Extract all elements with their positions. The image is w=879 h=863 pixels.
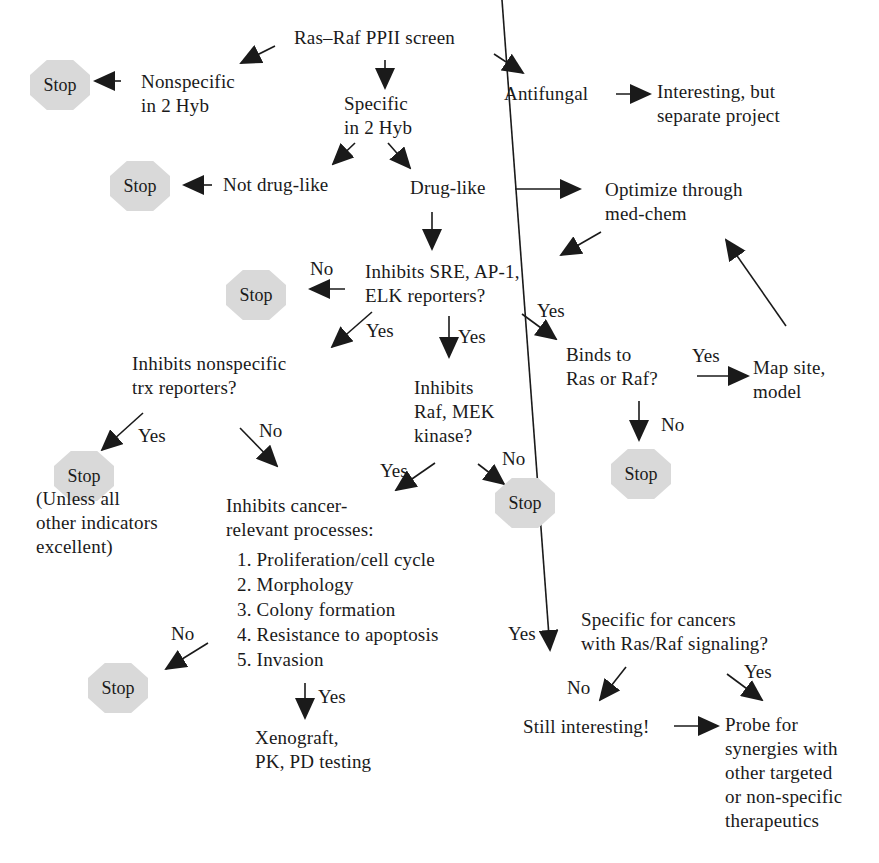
- inhibits-nonspecific-node: Inhibits nonspecific trx reporters?: [132, 352, 286, 400]
- map-site-node: Map site, model: [753, 356, 826, 404]
- probe-node: Probe for synergies with other targeted …: [725, 713, 842, 833]
- inhibits-raf-node: Inhibits Raf, MEK kinase?: [414, 376, 495, 448]
- arrow-specific-to-not-druglike: [333, 143, 355, 164]
- drug-like-node: Drug-like: [410, 176, 486, 200]
- arrow-map-site-to-optimize: [726, 240, 786, 326]
- process-item: 1. Proliferation/cell cycle: [237, 547, 439, 572]
- edge-label-yes: Yes: [692, 345, 720, 367]
- arrow-specific-cancers-to-still: [600, 667, 626, 700]
- not-drug-like-node: Not drug-like: [223, 173, 329, 197]
- specific-node: Specific in 2 Hyb: [344, 92, 412, 140]
- arrow-optimize-to-inhibits-sre: [561, 232, 601, 255]
- flowchart-canvas: Ras–Raf PPII screen Stop Nonspecific in …: [0, 0, 879, 863]
- still-interesting-node: Still interesting!: [523, 715, 650, 739]
- figure-caption-truncated: [85, 852, 705, 863]
- edge-label-no: No: [171, 623, 194, 645]
- stop-octagon-1: Stop: [30, 60, 90, 110]
- cancer-processes-node: Inhibits cancer- relevant processes:: [226, 494, 374, 542]
- edge-label-yes: Yes: [537, 300, 565, 322]
- edge-label-yes: Yes: [366, 320, 394, 342]
- edge-label-yes: Yes: [380, 460, 408, 482]
- edge-label-no: No: [310, 258, 333, 280]
- stop-octagon-6: Stop: [495, 478, 555, 528]
- edge-label-no: No: [567, 677, 590, 699]
- root-node: Ras–Raf PPII screen: [294, 26, 455, 50]
- edge-label-no: No: [259, 420, 282, 442]
- stop-octagon-3: Stop: [226, 270, 286, 320]
- antifungal-node: Antifungal: [504, 82, 588, 106]
- stop-octagon-4: Stop: [611, 449, 671, 499]
- stop-octagon-2: Stop: [110, 161, 170, 211]
- arrow-root-to-antifungal: [494, 54, 523, 73]
- arrow-raf-to-stop: [478, 464, 504, 484]
- arrow-cancer-to-stop: [166, 643, 208, 669]
- process-item: 4. Resistance to apoptosis: [237, 622, 439, 647]
- arrow-root-to-nonspecific: [241, 46, 275, 63]
- edge-label-yes: Yes: [318, 686, 346, 708]
- separate-project-node: Interesting, but separate project: [657, 80, 780, 128]
- optimize-node: Optimize through med-chem: [605, 178, 743, 226]
- stop-octagon-7: Stop: [88, 663, 148, 713]
- edge-label-yes: Yes: [744, 661, 772, 683]
- specific-cancers-node: Specific for cancers with Ras/Raf signal…: [581, 608, 768, 656]
- edge-label-yes: Yes: [138, 425, 166, 447]
- nonspecific-node: Nonspecific in 2 Hyb: [141, 70, 235, 118]
- edge-label-no: No: [502, 448, 525, 470]
- process-item: 2. Morphology: [237, 572, 439, 597]
- process-list: 1. Proliferation/cell cycle 2. Morpholog…: [237, 547, 439, 672]
- xenograft-node: Xenograft, PK, PD testing: [255, 726, 371, 774]
- inhibits-sre-node: Inhibits SRE, AP-1, ELK reporters?: [365, 260, 520, 308]
- process-item: 3. Colony formation: [237, 597, 439, 622]
- arrow-specific-to-druglike: [388, 143, 410, 168]
- edge-label-yes: Yes: [508, 623, 536, 645]
- unless-note: (Unless all other indicators excellent): [36, 487, 158, 559]
- binds-node: Binds to Ras or Raf?: [566, 343, 658, 391]
- edge-label-yes: Yes: [458, 326, 486, 348]
- edge-label-no: No: [661, 414, 684, 436]
- arrow-nonspecific-to-stop: [102, 413, 143, 450]
- process-item: 5. Invasion: [237, 647, 439, 672]
